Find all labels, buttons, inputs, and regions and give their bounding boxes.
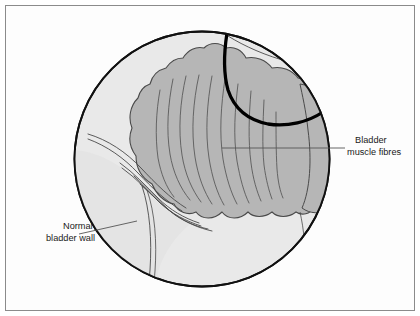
label-normal-bladder-wall-line2: bladder wall <box>46 233 95 243</box>
label-bladder-muscle-fibres-line1: Bladder <box>355 135 387 145</box>
bladder-illustration: Bladder muscle fibres Normal bladder wal… <box>0 0 420 316</box>
figure-root: Bladder muscle fibres Normal bladder wal… <box>0 0 420 316</box>
label-normal-bladder-wall-line1: Normal <box>63 221 93 231</box>
label-bladder-muscle-fibres-line2: muscle fibres <box>347 147 402 157</box>
